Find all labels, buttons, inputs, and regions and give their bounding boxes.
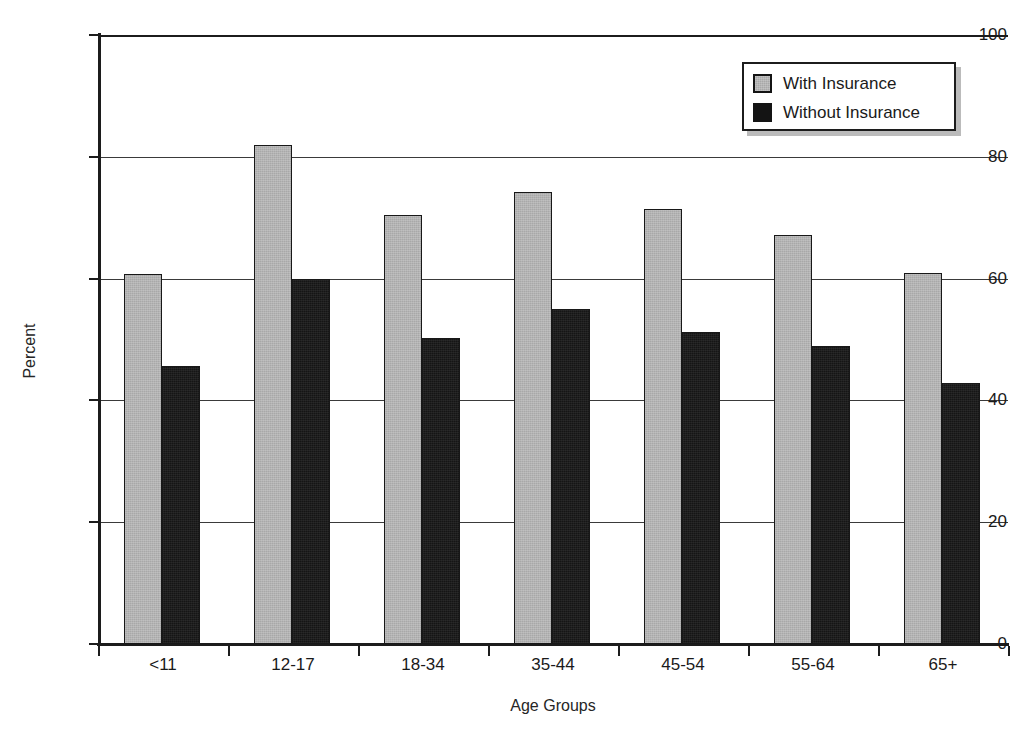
black-square-icon [753,103,772,122]
x-axis-title: Age Groups [453,697,653,715]
legend-entry-with-insurance: With Insurance [753,69,954,98]
legend-label: Without Insurance [783,103,920,123]
bar [124,274,162,644]
x-tick-label: 18-34 [358,655,488,675]
gridline [98,157,1008,158]
bar [162,366,200,644]
gray-square-icon [753,74,772,93]
y-tick-label: 80 [937,147,1021,167]
bar [254,145,292,644]
chart-legend: With Insurance Without Insurance [742,62,956,131]
y-axis-title: Percent [21,321,39,381]
x-tick-label: <11 [98,655,228,675]
y-tick-label: 100 [937,25,1021,45]
y-tick-mark [89,278,98,280]
legend-entry-without-insurance: Without Insurance [753,98,954,127]
x-tick-mark [1008,646,1010,656]
gridline [98,279,1008,280]
y-tick-mark [89,156,98,158]
bar [514,192,552,644]
y-tick-mark [89,643,98,645]
x-tick-label: 45-54 [618,655,748,675]
y-tick-mark [89,399,98,401]
y-tick-mark [89,34,98,36]
bar [384,215,422,644]
bar [552,309,590,644]
bar [904,273,942,644]
bar [422,338,460,644]
bar [682,332,720,644]
y-tick-label: 60 [937,269,1021,289]
x-tick-label: 12-17 [228,655,358,675]
legend-label: With Insurance [783,74,896,94]
bar [292,279,330,644]
bar [644,209,682,644]
y-tick-mark [89,521,98,523]
bar [774,235,812,644]
y-axis-line [98,33,101,646]
x-tick-label: 35-44 [488,655,618,675]
bar-chart: Percent Age Groups 020406080100 <1112-17… [0,0,1021,733]
x-tick-label: 65+ [878,655,1008,675]
x-tick-label: 55-64 [748,655,878,675]
bar [812,346,850,644]
bar [942,383,980,644]
gridline [98,35,1008,37]
